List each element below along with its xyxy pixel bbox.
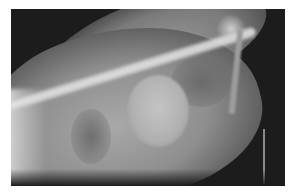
radiograph-image <box>11 9 285 186</box>
cardiac-silhouette <box>127 75 189 147</box>
film-edge-shadow <box>11 169 285 186</box>
abdominal-gas-shadow <box>71 109 111 164</box>
